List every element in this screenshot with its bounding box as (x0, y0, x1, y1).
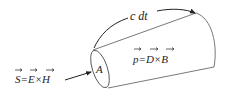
poynting-arrow (65, 72, 91, 80)
cylinder-bottom-edge (108, 67, 214, 88)
cylinder-far-end (196, 13, 215, 67)
length-label: c dt (130, 9, 148, 23)
momentum-label: p=D×B (132, 53, 168, 65)
poynting-vector-arrows (15, 69, 54, 72)
cylinder-diagram: c dt A p=D×B S=E×H (0, 0, 228, 95)
poynting-label: S=E×H (15, 73, 51, 85)
length-arrow-head-segment (157, 9, 195, 13)
diagram-canvas: c dt A p=D×B S=E×H (0, 0, 228, 95)
area-label: A (95, 63, 103, 75)
momentum-vector-arrows (134, 48, 174, 51)
